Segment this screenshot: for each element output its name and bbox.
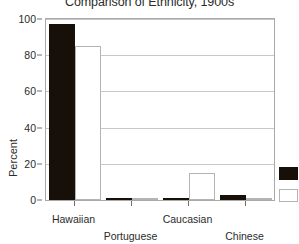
- y-axis-ticks: 020406080100: [0, 18, 42, 201]
- bar-chinese-series1: [220, 195, 246, 200]
- x-tick-mark: [74, 201, 75, 206]
- x-axis-ticks: HawaiianPortugueseCaucasianChinese: [45, 201, 275, 244]
- y-tick-label: 80: [24, 49, 36, 61]
- legend-item: Series 2: [279, 187, 299, 209]
- bar-chinese-series2: [246, 198, 272, 200]
- x-tick-label-hawaiian: Hawaiian: [52, 213, 95, 225]
- y-tick-label: 0: [30, 194, 36, 206]
- y-tick-mark: [37, 19, 42, 20]
- x-tick-label-chinese: Chinese: [225, 230, 264, 242]
- legend-swatch-series1: [279, 167, 298, 180]
- bar-caucasian-series1: [163, 198, 189, 200]
- legend-item: Series 1: [279, 165, 299, 187]
- legend-swatch-series2: [279, 189, 298, 202]
- x-tick-label-caucasian: Caucasian: [163, 213, 213, 225]
- gridline: [46, 19, 274, 20]
- plot-area: [45, 18, 275, 201]
- y-tick-mark: [37, 91, 42, 92]
- bar-chart: Comparison of Ethnicity, 1900s Percent 0…: [0, 0, 299, 244]
- x-tick-mark: [131, 201, 132, 206]
- y-tick-mark: [37, 55, 42, 56]
- bar-hawaiian-series2: [75, 46, 101, 200]
- y-tick-mark: [37, 127, 42, 128]
- y-tick-label: 100: [18, 13, 36, 25]
- bar-caucasian-series2: [189, 173, 215, 200]
- chart-legend: Series 1Series 2: [279, 165, 299, 209]
- bar-hawaiian-series1: [49, 24, 75, 200]
- y-tick-label: 60: [24, 85, 36, 97]
- x-tick-mark: [245, 201, 246, 206]
- y-tick-label: 20: [24, 158, 36, 170]
- x-tick-mark: [188, 201, 189, 206]
- bar-portuguese-series1: [106, 198, 132, 200]
- chart-title: Comparison of Ethnicity, 1900s: [0, 0, 299, 9]
- x-tick-label-portuguese: Portuguese: [104, 230, 158, 242]
- bar-portuguese-series2: [132, 198, 158, 200]
- y-tick-mark: [37, 200, 42, 201]
- y-tick-label: 40: [24, 122, 36, 134]
- y-tick-mark: [37, 163, 42, 164]
